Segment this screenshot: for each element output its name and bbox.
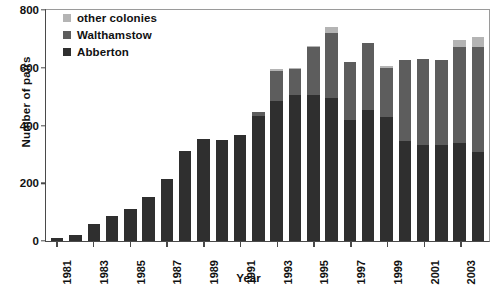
bar-segment xyxy=(453,40,465,47)
bar-group xyxy=(341,10,359,241)
bar-segment xyxy=(344,120,356,241)
bar-segment xyxy=(472,152,484,241)
bar-segment xyxy=(325,33,337,99)
stacked-bar xyxy=(435,60,447,241)
bar-group xyxy=(377,10,395,241)
legend-swatch-icon xyxy=(63,31,71,39)
bar-segment xyxy=(307,47,319,95)
bar-segment xyxy=(453,47,465,143)
stacked-bar xyxy=(472,37,484,241)
stacked-bar xyxy=(307,46,319,241)
bar-segment xyxy=(307,95,319,241)
legend-label: Walthamstow xyxy=(77,29,152,41)
bar-group xyxy=(231,10,249,241)
stacked-bar xyxy=(399,60,411,241)
bar-group xyxy=(396,10,414,241)
bar-segment xyxy=(106,216,118,241)
stacked-bar xyxy=(380,66,392,241)
bar-segment xyxy=(472,37,484,47)
stacked-bar xyxy=(344,62,356,241)
bar-group xyxy=(268,10,286,241)
y-axis-title: Number of pairs xyxy=(20,32,32,172)
bar-segment xyxy=(270,101,282,241)
stacked-bar xyxy=(142,197,154,241)
x-axis-title: Year xyxy=(0,272,497,284)
stacked-bar xyxy=(179,151,191,241)
legend-item: Walthamstow xyxy=(63,27,157,42)
bar-group xyxy=(286,10,304,241)
bar-group xyxy=(322,10,340,241)
bar-segment xyxy=(289,69,301,95)
bar-segment xyxy=(380,117,392,241)
bar-group xyxy=(158,10,176,241)
bar-segment xyxy=(325,98,337,241)
legend-item: Abberton xyxy=(63,44,157,59)
legend-label: other colonies xyxy=(77,12,157,24)
bar-segment xyxy=(453,143,465,241)
bar-segment xyxy=(417,145,429,241)
bar-group xyxy=(359,10,377,241)
legend-item: other colonies xyxy=(63,10,157,25)
stacked-bar xyxy=(325,27,337,241)
legend-swatch-icon xyxy=(63,14,71,22)
stacked-bar-chart: Number of pairs 0200400600800 1981198319… xyxy=(0,0,497,289)
y-tick-mark xyxy=(41,9,46,10)
bar-segment xyxy=(69,235,81,241)
stacked-bar xyxy=(106,216,118,241)
legend-label: Abberton xyxy=(77,46,129,58)
bar-segment xyxy=(179,151,191,241)
bar-segment xyxy=(234,135,246,241)
bar-segment xyxy=(289,95,301,241)
bar-segment xyxy=(362,43,374,110)
bar-segment xyxy=(399,60,411,141)
bar-segment xyxy=(142,197,154,241)
legend-swatch-icon xyxy=(63,48,71,56)
bar-group xyxy=(451,10,469,241)
stacked-bar xyxy=(270,69,282,241)
bar-segment xyxy=(124,209,136,241)
bar-segment xyxy=(435,145,447,241)
bar-segment xyxy=(270,71,282,102)
bar-segment xyxy=(472,47,484,152)
stacked-bar xyxy=(88,224,100,241)
bar-group xyxy=(432,10,450,241)
bar-segment xyxy=(417,59,429,145)
y-tick-mark xyxy=(41,183,46,184)
stacked-bar xyxy=(289,68,301,241)
bar-segment xyxy=(88,224,100,241)
stacked-bar xyxy=(362,43,374,241)
bar-group xyxy=(194,10,212,241)
bar-group xyxy=(469,10,487,241)
bar-segment xyxy=(216,140,228,241)
bar-group xyxy=(304,10,322,241)
bar-segment xyxy=(344,62,356,120)
stacked-bar xyxy=(453,40,465,241)
bar-segment xyxy=(435,60,447,145)
bar-segment xyxy=(161,179,173,241)
bar-segment xyxy=(252,116,264,241)
bar-segment xyxy=(362,110,374,241)
bar-group xyxy=(213,10,231,241)
y-tick-mark xyxy=(41,67,46,68)
bar-group xyxy=(249,10,267,241)
y-tick-mark xyxy=(41,125,46,126)
stacked-bar xyxy=(124,209,136,241)
bar-segment xyxy=(197,139,209,241)
bar-segment xyxy=(51,238,63,241)
x-axis-tick-labels: 1981198319851987198919911993199519971999… xyxy=(45,247,490,275)
stacked-bar xyxy=(197,139,209,241)
stacked-bar xyxy=(51,238,63,241)
stacked-bar xyxy=(252,112,264,241)
stacked-bar xyxy=(69,235,81,241)
stacked-bar xyxy=(216,140,228,241)
stacked-bar xyxy=(161,179,173,241)
chart-legend: other coloniesWalthamstowAbberton xyxy=(63,10,157,61)
bar-group xyxy=(414,10,432,241)
stacked-bar xyxy=(234,135,246,241)
bar-group xyxy=(176,10,194,241)
stacked-bar xyxy=(417,59,429,241)
bar-segment xyxy=(399,141,411,241)
bar-segment xyxy=(380,68,392,118)
